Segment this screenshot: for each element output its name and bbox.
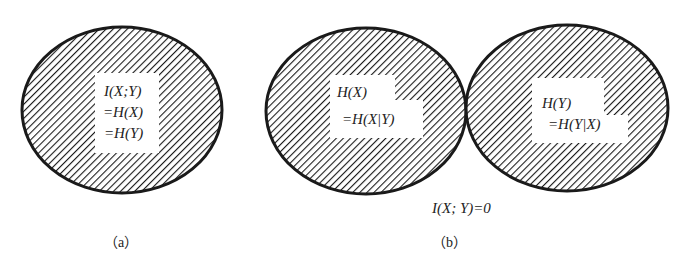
- panel-a: I(X;Y) =H(X) =H(Y) （a）: [22, 27, 222, 250]
- label-hx: H(X): [336, 84, 367, 101]
- label-mutual-info: I(X;Y): [103, 83, 142, 100]
- label-mutual-info-zero: I(X; Y)=0: [431, 200, 491, 217]
- caption-a: （a）: [104, 235, 138, 250]
- label-equals-hy: =H(Y): [104, 125, 143, 142]
- caption-b: （b）: [432, 235, 467, 250]
- label-equals-hx: =H(X): [103, 104, 143, 121]
- label-hy: H(Y): [541, 95, 571, 112]
- venn-diagram: I(X;Y) =H(X) =H(Y) （a） H(X) =H(X|Y) H(Y)…: [0, 0, 690, 267]
- label-hy-given-x: =H(Y|X): [548, 116, 601, 133]
- label-hx-given-y: =H(X|Y): [342, 111, 395, 128]
- panel-b: H(X) =H(X|Y) H(Y) =H(Y|X) I(X; Y)=0 （b）: [266, 25, 668, 250]
